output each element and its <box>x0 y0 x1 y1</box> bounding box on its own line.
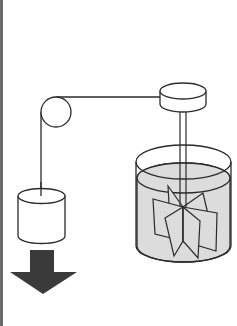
weight-icon <box>18 182 65 244</box>
pulley-icon <box>41 97 71 127</box>
drum-icon <box>160 83 206 112</box>
down-arrow-icon <box>10 250 77 294</box>
diagram-frame: Joule apparatus: falling weight drives p… <box>0 0 237 326</box>
joule-apparatus-svg <box>0 0 237 326</box>
